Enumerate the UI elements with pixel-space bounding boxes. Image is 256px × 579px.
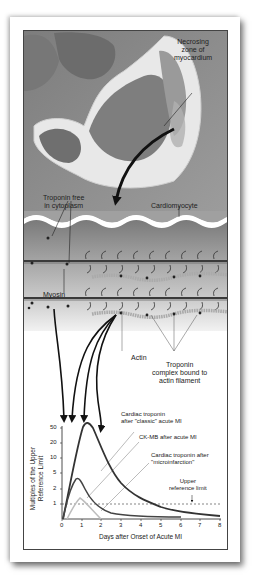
- label-line: Reference Limit: [36, 434, 44, 524]
- y-tick-5: 5: [53, 469, 56, 475]
- label-line: Cardiac troponin: [121, 411, 182, 418]
- y-tick-50: 50: [50, 424, 57, 430]
- label-line: zone of: [174, 46, 212, 54]
- label-line: Cardiac troponin after: [151, 452, 209, 459]
- label-line: in cytoplasm: [43, 202, 84, 210]
- x-tick-3: 3: [119, 522, 122, 528]
- x-tick-5: 5: [159, 522, 162, 528]
- x-axis-title: Days after Onset of Acute MI: [99, 533, 182, 541]
- label-line: after "classic" acute MI: [121, 418, 182, 425]
- label-line: Multiples of the Upper: [29, 434, 37, 524]
- x-tick-4: 4: [139, 522, 142, 528]
- cardiomyocyte-illustration: [24, 201, 228, 361]
- label-line: actin filament: [152, 377, 207, 385]
- x-tick-0: 0: [60, 522, 63, 528]
- series-troponin-micro: [67, 498, 101, 519]
- label-line: Troponin free: [43, 194, 84, 202]
- annotation-troponin-classic: Cardiac troponin after "classic" acute M…: [121, 411, 182, 425]
- annotation-reference-limit: Upper reference limit: [169, 478, 207, 492]
- label-line: Troponin: [152, 361, 207, 369]
- x-tick-7: 7: [198, 522, 201, 528]
- label-line: Upper: [169, 478, 207, 485]
- label-actin: Actin: [131, 354, 147, 362]
- label-necrosing-zone: Necrosing zone of myocardium: [174, 38, 212, 62]
- y-tick-10: 10: [50, 454, 57, 460]
- label-troponin-complex: Troponin complex bound to actin filament: [152, 361, 207, 385]
- label-cardiomyocyte: Cardiomyocyte: [151, 202, 198, 210]
- x-tick-6: 6: [179, 522, 182, 528]
- label-line: reference limit: [169, 485, 207, 492]
- x-tick-1: 1: [80, 522, 83, 528]
- x-tick-8: 8: [218, 522, 221, 528]
- y-tick-20: 20: [50, 439, 57, 445]
- y-axis-title: Multiples of the Upper Reference Limit: [29, 434, 44, 524]
- label-line: "microinfarction": [151, 459, 209, 466]
- label-troponin-free: Troponin free in cytoplasm: [43, 194, 84, 210]
- annotation-ckmb: CK-MB after acute MI: [139, 434, 197, 441]
- annotation-troponin-micro: Cardiac troponin after "microinfarction": [151, 452, 209, 466]
- figure-frame: Necrosing zone of myocardium Troponin fr…: [23, 30, 228, 550]
- label-line: myocardium: [174, 54, 212, 62]
- x-tick-2: 2: [99, 522, 102, 528]
- y-tick-1: 1: [53, 500, 56, 506]
- label-myosin: Myosin: [43, 291, 65, 299]
- label-line: complex bound to: [152, 369, 207, 377]
- y-tick-2: 2: [53, 485, 56, 491]
- label-line: Necrosing: [174, 38, 212, 46]
